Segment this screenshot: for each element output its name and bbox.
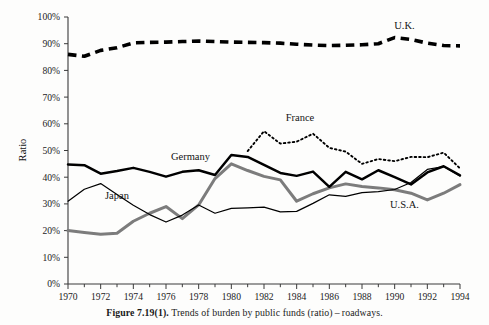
y-axis-title: Ratio xyxy=(17,139,28,162)
x-tick-label: 1988 xyxy=(352,291,371,300)
y-tick-label: 60% xyxy=(42,118,60,129)
x-tick-label: 1972 xyxy=(91,291,110,300)
series-label-japan: Japan xyxy=(105,190,130,201)
x-tick-label: 1980 xyxy=(222,291,241,300)
y-tick-label: 90% xyxy=(42,38,60,49)
line-chart-svg: 0%10%20%30%40%50%60%70%80%90%100% 197019… xyxy=(0,0,489,300)
x-tick-label: 1982 xyxy=(254,291,273,300)
x-tick-label: 1970 xyxy=(58,291,77,300)
y-tick-label: 10% xyxy=(42,252,60,263)
chart-plot-area: 0%10%20%30%40%50%60%70%80%90%100% 197019… xyxy=(0,0,489,300)
y-tick-label: 50% xyxy=(42,145,60,156)
y-tick-label: 40% xyxy=(42,172,60,183)
x-tick-label: 1984 xyxy=(287,291,306,300)
x-tick-label: 1990 xyxy=(385,291,404,300)
x-tick-label: 1974 xyxy=(124,291,143,300)
figure-caption: Figure 7.19(1). Trends of burden by publ… xyxy=(106,307,382,318)
y-tick-label: 0% xyxy=(47,278,60,289)
x-tick-label: 1992 xyxy=(418,291,437,300)
x-tick-label: 1978 xyxy=(189,291,208,300)
figure-container: 0%10%20%30%40%50%60%70%80%90%100% 197019… xyxy=(0,0,489,325)
caption-body-text: Trends of burden by public funds (ratio)… xyxy=(171,307,382,318)
y-tick-label: 70% xyxy=(42,92,60,103)
caption-figure-number: Figure 7.19(1). xyxy=(106,307,169,318)
series-label-france: France xyxy=(286,112,315,123)
x-tick-label: 1986 xyxy=(320,291,339,300)
series-label-germany: Germany xyxy=(171,151,211,162)
y-tick-label: 30% xyxy=(42,198,60,209)
chart-background xyxy=(0,0,489,300)
figure-caption-bar: Figure 7.19(1). Trends of burden by publ… xyxy=(0,300,489,325)
y-tick-label: 80% xyxy=(42,65,60,76)
series-label-uk: U.K. xyxy=(394,20,414,31)
y-tick-label: 100% xyxy=(38,11,60,22)
series-label-usa: U.S.A. xyxy=(390,199,419,210)
y-axis-title-text: Ratio xyxy=(17,139,28,162)
x-tick-label: 1976 xyxy=(156,291,175,300)
y-tick-label: 20% xyxy=(42,225,60,236)
x-tick-label: 1994 xyxy=(450,291,469,300)
